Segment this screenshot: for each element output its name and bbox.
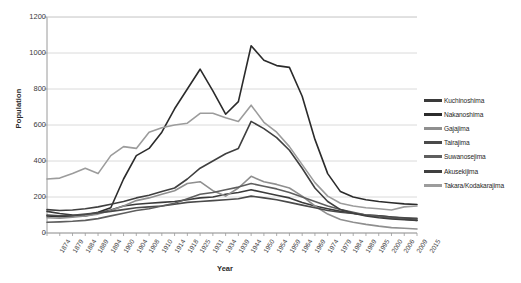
legend-item[interactable]: Nakanoshima [424,107,521,121]
series-line [47,184,417,223]
legend-label: Suwanosejima [444,153,486,160]
y-tick-label: 0 [20,229,46,237]
y-tick-label: 800 [20,85,46,93]
chart-legend: KuchinoshimaNakanoshimaGajajimaTairajima… [424,93,521,192]
x-axis-title: Year [180,264,270,273]
series-line [47,121,417,220]
legend-color-swatch [424,99,442,102]
legend-color-swatch [424,141,442,144]
legend-item[interactable]: Gajajima [424,121,521,135]
legend-item[interactable]: Suwanosejima [424,150,521,164]
series-line [47,105,417,210]
legend-color-swatch [424,184,442,187]
legend-label: Tairajima [444,139,469,146]
legend-color-swatch [424,127,442,130]
legend-label: Nakanoshima [444,111,483,118]
y-tick-label: 1000 [20,49,46,57]
legend-item[interactable]: Akusekijima [424,164,521,178]
legend-item[interactable]: Takara/Kodakarajima [424,178,521,192]
legend-label: Takara/Kodakarajima [444,182,504,189]
y-tick-label: 400 [20,157,46,165]
legend-color-swatch [424,170,442,173]
y-axis-tick-labels: 020040060080010001200 [18,0,46,283]
y-tick-label: 200 [20,193,46,201]
legend-item[interactable]: Kuchinoshima [424,93,521,107]
legend-color-swatch [424,113,442,116]
legend-label: Kuchinoshima [444,97,484,104]
legend-item[interactable]: Tairajima [424,136,521,150]
series-line [47,176,417,229]
legend-color-swatch [424,155,442,158]
legend-label: Gajajima [444,125,469,132]
population-line-chart: Population Year 020040060080010001200 18… [0,0,521,283]
y-tick-label: 1200 [20,13,46,21]
legend-label: Akusekijima [444,168,478,175]
y-tick-label: 600 [20,121,46,129]
